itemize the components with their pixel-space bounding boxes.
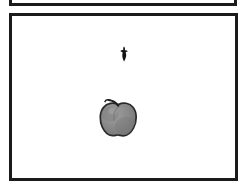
apple-illustration — [96, 96, 140, 140]
panel-canvas — [12, 16, 235, 178]
bird-icon — [118, 46, 130, 62]
scene-root — [0, 0, 246, 188]
panel-above — [9, 0, 237, 6]
panel-main — [9, 13, 238, 181]
